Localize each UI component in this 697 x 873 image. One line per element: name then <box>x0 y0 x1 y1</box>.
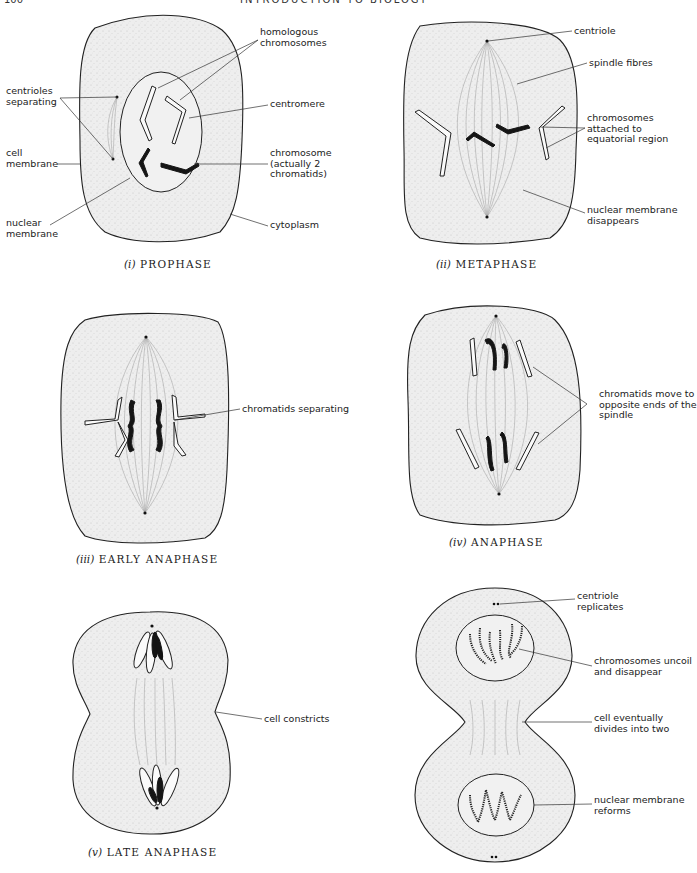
label-chromosome: chromosome (actually 2 chromatids) <box>270 148 332 180</box>
label-cytoplasm: cytoplasm <box>270 220 319 231</box>
caption-title: PROPHASE <box>140 258 212 270</box>
panel-telophase <box>415 588 592 862</box>
panel-anaphase <box>408 306 587 525</box>
caption-numeral: (v) <box>88 846 102 858</box>
label-centriole-replicates: centriole replicates <box>577 591 623 612</box>
caption-title: LATE ANAPHASE <box>107 846 218 858</box>
panel-late-anaphase <box>73 612 262 834</box>
caption-late-anaphase: (v) LATE ANAPHASE <box>88 846 217 858</box>
label-cell-divides: cell eventually divides into two <box>594 713 669 734</box>
caption-numeral: (i) <box>124 258 136 270</box>
panel-metaphase <box>404 22 587 244</box>
label-nuclear-membrane-reforms: nuclear membrane reforms <box>594 795 684 816</box>
lower-nucleus <box>458 774 534 836</box>
caption-title: METAPHASE <box>455 258 537 270</box>
label-cell-constricts: cell constricts <box>264 714 330 725</box>
panel-prophase <box>50 15 268 241</box>
caption-title: ANAPHASE <box>471 536 544 548</box>
label-chromatids-move: chromatids move to opposite ends of the … <box>599 389 697 421</box>
label-spindle-fibres: spindle fibres <box>589 58 653 69</box>
label-centromere: centromere <box>270 99 325 110</box>
caption-prophase: (i) PROPHASE <box>124 258 212 270</box>
caption-title: EARLY ANAPHASE <box>99 553 219 565</box>
label-chromosomes-uncoil: chromosomes uncoil and disappear <box>594 656 692 677</box>
label-cell-membrane: cell membrane <box>6 148 58 169</box>
caption-numeral: (ii) <box>436 258 451 270</box>
label-nuclear-membrane-disappears: nuclear membrane disappears <box>587 205 677 226</box>
caption-early-anaphase: (iii) EARLY ANAPHASE <box>76 553 218 565</box>
label-homologous-chromosomes: homologous chromosomes <box>260 27 327 48</box>
panel-early-anaphase <box>61 313 240 543</box>
caption-metaphase: (ii) METAPHASE <box>436 258 537 270</box>
caption-numeral: (iii) <box>76 553 94 565</box>
label-chromosomes-attached: chromosomes attached to equatorial regio… <box>587 113 668 145</box>
caption-numeral: (iv) <box>449 536 466 548</box>
label-chromatids-separating: chromatids separating <box>242 404 349 415</box>
caption-anaphase: (iv) ANAPHASE <box>449 536 544 548</box>
label-centrioles-separating: centrioles separating <box>6 86 57 107</box>
label-centriole: centriole <box>574 26 616 37</box>
nucleus-shape <box>120 72 202 192</box>
label-nuclear-membrane: nuclear membrane <box>6 218 58 239</box>
upper-nucleus <box>456 615 534 681</box>
